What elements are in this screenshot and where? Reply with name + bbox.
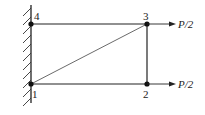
node-label-1: 1 (32, 88, 38, 100)
node-label-3: 3 (143, 10, 149, 22)
arrowhead-icon (169, 22, 176, 27)
load-label-node-3: P/2 (177, 18, 194, 30)
load-label-node-2: P/2 (177, 78, 194, 90)
truss-members (31, 24, 147, 84)
arrowhead-icon (169, 82, 176, 87)
node-4 (28, 21, 33, 26)
node-label-4: 4 (34, 10, 40, 22)
member-1-3 (31, 24, 147, 84)
load-arrow-node-3: P/2 (147, 18, 194, 30)
node-1 (28, 81, 33, 86)
fixed-wall-support (23, 5, 31, 106)
load-arrow-node-2: P/2 (147, 78, 194, 90)
node-label-2: 2 (143, 88, 149, 100)
